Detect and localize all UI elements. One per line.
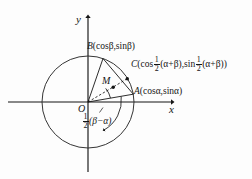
fraction-numerator: 1	[196, 56, 202, 64]
math-figure-unit-circle: y x O B(cosβ,sinβ) M C(cos12(α+β),sin12(…	[0, 0, 252, 179]
segment-OB	[88, 59, 103, 103]
point-A-coords: (cosα,sinα)	[140, 86, 182, 96]
point-B-coords: (cosβ,sinβ)	[93, 41, 135, 51]
point-label-B: B(cosβ,sinβ)	[87, 42, 135, 52]
point-C-fraction-1: 12	[154, 56, 160, 74]
fraction-numerator: 1	[83, 113, 89, 121]
point-label-C: C(cos12(α+β),sin12(α+β))	[131, 56, 227, 74]
point-C-arg-one: (α+β),sin	[160, 59, 195, 69]
point-C-open: (cos	[137, 59, 153, 69]
figure-canvas	[0, 0, 252, 179]
segment-OA	[88, 94, 133, 102]
point-marker-M	[112, 86, 115, 89]
x-axis-label: x	[169, 104, 174, 115]
fraction-denominator: 2	[83, 121, 89, 130]
fraction-numerator: 1	[154, 56, 160, 64]
angle-label-half-beta-minus-alpha: 12(β−α)	[82, 113, 111, 131]
point-label-M: M	[102, 76, 110, 86]
angle-label-leader	[100, 108, 104, 113]
angle-expression: (β−α)	[89, 116, 111, 126]
point-marker-C	[126, 77, 129, 80]
point-C-close: )	[224, 59, 227, 69]
point-C-arg-two: (α+β)	[202, 59, 224, 69]
angle-fraction: 12	[83, 113, 89, 131]
point-C-fraction-2: 12	[196, 56, 202, 74]
fraction-denominator: 2	[154, 64, 160, 73]
fraction-denominator: 2	[196, 64, 202, 73]
point-label-A: A(cosα,sinα)	[134, 87, 182, 97]
y-axis-label: y	[76, 14, 81, 25]
